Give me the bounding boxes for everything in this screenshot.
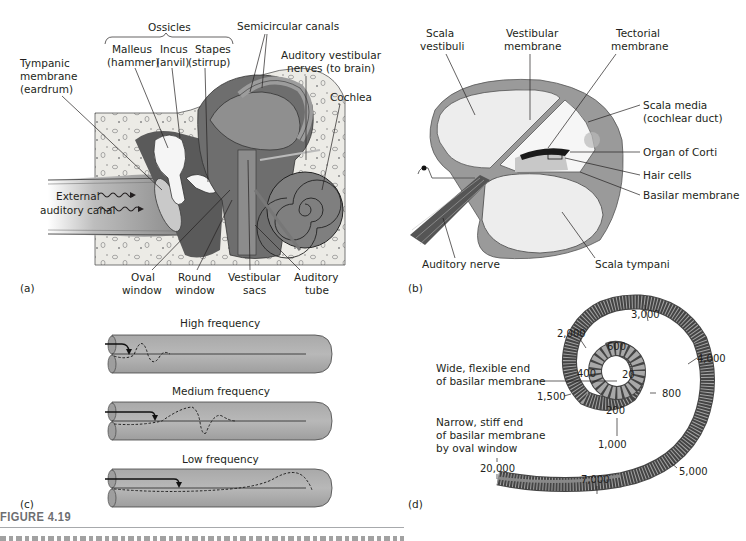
label-malleus: Malleus xyxy=(112,43,152,55)
figure-divider xyxy=(0,527,404,528)
label-basilar-membrane: Basilar membrane xyxy=(643,189,739,201)
panel-b-cochlea-cross-section: Scala vestibuli Vestibular membrane Tect… xyxy=(408,27,739,294)
label-vestibuli: vestibuli xyxy=(420,40,464,52)
label-nerves-to-brain: nerves (to brain) xyxy=(287,62,375,74)
label-anvil: (anvil) xyxy=(156,56,189,68)
label-narrow-end-3: by oval window xyxy=(436,442,518,454)
label-incus: Incus xyxy=(160,43,188,55)
label-hair-cells: Hair cells xyxy=(643,169,691,181)
panel-d-basilar-spiral: 3,000 2,000 600 4,000 400 20 800 1,500 2… xyxy=(408,302,726,510)
label-wide-end-1: Wide, flexible end xyxy=(436,362,530,374)
label-cochlear-duct: (cochlear duct) xyxy=(643,112,723,124)
label-auditory-nerve: Auditory nerve xyxy=(422,258,500,270)
freq-600: 600 xyxy=(607,341,626,352)
figure-title: FIGURE 4.19 xyxy=(0,509,71,524)
label-round-window: window xyxy=(175,284,215,296)
label-vestibular-membrane-2: membrane xyxy=(504,40,561,52)
freq-400: 400 xyxy=(577,368,596,379)
label-semicircular-canals: Semicircular canals xyxy=(237,20,339,32)
label-auditory-canal: auditory canal xyxy=(40,204,115,216)
label-eardrum: (eardrum) xyxy=(20,83,73,95)
label-vestibular: Vestibular xyxy=(228,271,281,283)
label-tectorial-2: membrane xyxy=(611,40,668,52)
label-tectorial-1: Tectorial xyxy=(615,27,660,39)
tube-high-frequency xyxy=(105,335,332,373)
label-scala: Scala xyxy=(426,27,454,39)
label-scala-tympani: Scala tympani xyxy=(595,258,670,270)
label-auditory: Auditory xyxy=(294,271,339,283)
label-auditory-vestibular: Auditory vestibular xyxy=(281,49,382,61)
label-stirrup: (stirrup) xyxy=(188,56,230,68)
freq-20: 20 xyxy=(622,369,635,380)
freq-1500: 1,500 xyxy=(537,391,566,402)
figure-canvas: Ossicles Malleus (hammer) Incus (anvil) … xyxy=(0,0,746,541)
label-narrow-end-2: of basilar membrane xyxy=(436,429,545,441)
freq-1000: 1,000 xyxy=(598,439,627,450)
freq-2000: 2,000 xyxy=(557,328,586,339)
label-narrow-end-1: Narrow, stiff end xyxy=(436,416,523,428)
panel-a-letter: (a) xyxy=(20,282,35,294)
label-tympanic: Tympanic xyxy=(19,57,70,69)
label-stapes: Stapes xyxy=(195,43,231,55)
label-oval-window: window xyxy=(122,284,162,296)
tube-low-frequency xyxy=(105,469,332,507)
label-scala-media: Scala media xyxy=(643,99,707,111)
panel-d-letter: (d) xyxy=(408,498,423,510)
figure-caption-clipped xyxy=(0,536,404,541)
label-hammer: (hammer) xyxy=(107,56,160,68)
label-low-frequency: Low frequency xyxy=(182,453,259,465)
freq-7000: 7,000 xyxy=(581,474,610,485)
label-membrane: membrane xyxy=(20,70,77,82)
freq-5000: 5,000 xyxy=(679,466,708,477)
label-vestibular-membrane-1: Vestibular xyxy=(506,27,559,39)
freq-200: 200 xyxy=(606,405,625,416)
label-oval: Oval xyxy=(131,271,155,283)
panel-c-frequency-tubes: High frequency Medium frequency Low freq… xyxy=(20,317,332,510)
label-sacs: sacs xyxy=(243,284,266,296)
freq-3000: 3,000 xyxy=(631,309,660,320)
tube-medium-frequency xyxy=(105,402,332,440)
label-high-frequency: High frequency xyxy=(180,317,260,329)
freq-800: 800 xyxy=(662,388,681,399)
label-round: Round xyxy=(178,271,211,283)
freq-4000: 4,000 xyxy=(697,353,726,364)
label-cochlea: Cochlea xyxy=(330,91,372,103)
panel-b-letter: (b) xyxy=(408,282,423,294)
label-tube: tube xyxy=(305,284,329,296)
label-wide-end-2: of basilar membrane xyxy=(436,375,545,387)
label-ossicles: Ossicles xyxy=(148,21,191,33)
panel-a-ear-anatomy: Ossicles Malleus (hammer) Incus (anvil) … xyxy=(19,20,382,296)
label-external: External xyxy=(56,190,100,202)
label-organ-of-corti: Organ of Corti xyxy=(643,146,717,158)
freq-20000: 20,000 xyxy=(480,463,515,474)
label-medium-frequency: Medium frequency xyxy=(172,385,270,397)
